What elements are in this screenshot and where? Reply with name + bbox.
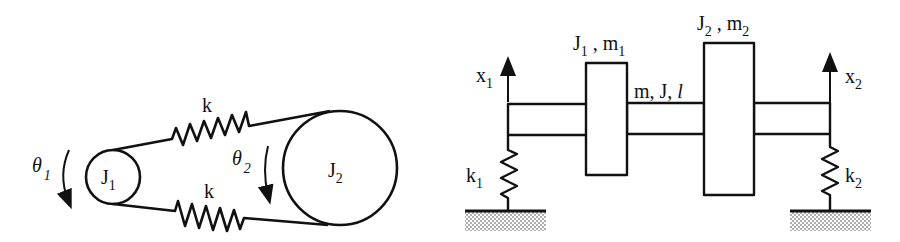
label-j1: J1 — [101, 166, 116, 193]
shaft-right — [754, 103, 830, 134]
label-j2: J2 — [328, 159, 343, 186]
shaft-left — [508, 104, 587, 135]
label-k1: k1 — [466, 164, 483, 191]
ground-left — [465, 211, 546, 231]
disk-2 — [704, 43, 754, 195]
shaft-middle — [627, 103, 704, 134]
rotation-arrow-2 — [265, 146, 268, 195]
label-disk-1: J1 , m1 — [573, 32, 625, 59]
label-disk-2: J2 , m2 — [697, 12, 749, 39]
diagram-canvas: J1 J2 k k θ1 θ2 J1 , m1 J2 , m2 m, J, l … — [0, 0, 900, 242]
label-x1: x1 — [476, 64, 493, 91]
label-x2: x2 — [845, 65, 862, 92]
pulley-belt-diagram — [63, 111, 397, 231]
pulley-j1 — [86, 150, 140, 204]
label-shaft: m, J, l — [634, 80, 683, 102]
label-k-top: k — [202, 94, 212, 116]
label-theta1: θ1 — [32, 154, 51, 183]
pulley-j2 — [283, 111, 397, 225]
label-k-bottom: k — [204, 180, 214, 202]
label-theta2: θ2 — [232, 147, 251, 176]
spring-k1 — [501, 135, 517, 210]
spring-k2 — [822, 134, 838, 210]
shaft-disk-diagram — [501, 43, 838, 210]
ground-right — [790, 211, 871, 231]
label-k2: k2 — [845, 164, 862, 191]
disk-1 — [586, 63, 627, 175]
rotation-arrow-1 — [63, 150, 69, 200]
